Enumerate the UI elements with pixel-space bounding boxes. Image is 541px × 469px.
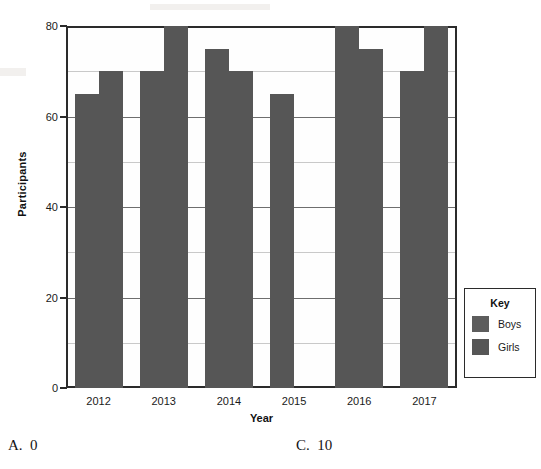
legend-entries: BoysGirls: [465, 316, 535, 355]
bar: [335, 26, 359, 388]
x-axis-tick-label: 2016: [327, 394, 392, 408]
legend-title: Key: [465, 297, 535, 309]
answer-option-a[interactable]: A. 0: [8, 437, 38, 454]
legend-box: Key BoysGirls: [464, 288, 536, 378]
x-axis-tick-label: 2013: [131, 394, 196, 408]
bar: [400, 71, 424, 388]
y-axis-tick-marks: [0, 26, 70, 388]
scan-artifact: [150, 4, 270, 10]
answer-options: A. 0 C. 10: [0, 437, 541, 469]
bar: [205, 49, 229, 388]
answer-option-c[interactable]: C. 10: [296, 437, 332, 454]
x-axis-title: Year: [66, 412, 457, 424]
bar-chart-figure: Participants 020406080 20122013201420152…: [0, 0, 541, 432]
legend-item-label: Boys: [498, 318, 521, 330]
bar: [359, 49, 383, 388]
x-axis-tick-label: 2012: [66, 394, 131, 408]
bar: [99, 71, 123, 388]
legend-item-label: Girls: [498, 341, 520, 353]
legend-color-swatch: [472, 339, 489, 355]
bar: [229, 71, 253, 388]
legend-item: Boys: [465, 316, 535, 332]
bar: [270, 94, 294, 388]
x-axis-tick-label: 2015: [262, 394, 327, 408]
bar: [75, 94, 99, 388]
bar: [164, 26, 188, 388]
x-axis-tick-label: 2017: [392, 394, 457, 408]
bar: [140, 71, 164, 388]
legend-item: Girls: [465, 339, 535, 355]
x-axis-tick-label: 2014: [196, 394, 261, 408]
x-axis-tick-labels: 201220132014201520162017: [66, 394, 457, 410]
bars-layer: [66, 26, 457, 388]
legend-color-swatch: [472, 316, 489, 332]
bar: [424, 26, 448, 388]
